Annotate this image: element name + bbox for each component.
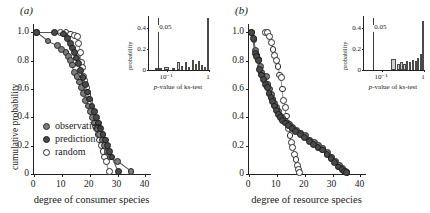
histogram-bar [185, 62, 187, 70]
y-tick-label: 0.4 [216, 111, 244, 121]
histogram-bar [204, 67, 206, 70]
threshold-line [158, 32, 159, 70]
inset-x-tick-label: 1 [411, 73, 430, 81]
x-tickmark [277, 174, 278, 177]
histogram-bar [172, 68, 175, 70]
inset-x-axis-label: p-value of ks-test [138, 83, 218, 91]
histogram-bar [188, 67, 190, 70]
data-point-random [279, 86, 286, 93]
inset-axes [148, 16, 209, 71]
x-tick-label: 20 [290, 179, 318, 189]
data-point-prediction [115, 168, 122, 175]
x-tick-label: 40 [130, 179, 158, 189]
legend-label-random: random [55, 146, 86, 157]
x-tick-label: 10 [47, 179, 75, 189]
x-tickmark [360, 174, 361, 177]
inset-y-axis-label: probability [341, 41, 348, 70]
inset-y-tickmark [362, 49, 364, 50]
y-tick-label: 0.8 [1, 55, 29, 65]
x-tickmark [305, 174, 306, 177]
x-tick-label: 20 [75, 179, 103, 189]
data-point-prediction [250, 35, 257, 42]
data-point-prediction [82, 81, 89, 88]
figure-root: (a)00.20.40.60.81.0010203040cumulative p… [0, 0, 430, 213]
x-tick-label: 10 [262, 179, 290, 189]
x-tickmark [249, 174, 250, 177]
histogram-bar [207, 18, 209, 70]
y-tickmark [246, 146, 249, 147]
histogram-bar [198, 61, 200, 70]
inset-y-tickmark [147, 70, 149, 71]
data-point-random [75, 40, 82, 47]
threshold-label: 0.05 [159, 23, 171, 31]
inset-x-tickmark [382, 70, 383, 72]
legend-marker-random [43, 149, 50, 156]
data-point-random [278, 74, 285, 81]
data-point-random [268, 39, 275, 46]
legend-marker-prediction [43, 136, 50, 143]
y-tickmark [31, 146, 34, 147]
y-tickmark [246, 61, 249, 62]
inset-x-tick-label: 10⁻¹ [154, 73, 178, 81]
y-tickmark [31, 117, 34, 118]
y-tickmark [246, 89, 249, 90]
inset-x-axis-label: p-value of ks-test [353, 83, 430, 91]
data-point-prediction [255, 57, 262, 64]
x-tick-label: 40 [345, 179, 373, 189]
data-point-random [74, 33, 81, 40]
y-tickmark [246, 117, 249, 118]
data-point-random [275, 63, 282, 70]
inset-y-tickmark [362, 28, 364, 29]
legend-label-prediction: prediction [55, 133, 96, 144]
data-point-random [280, 97, 287, 104]
x-tick-label: 30 [318, 179, 346, 189]
data-point-prediction [75, 60, 82, 67]
histogram-bar [192, 60, 194, 70]
data-point-random [282, 104, 289, 111]
histogram-bar [406, 61, 408, 70]
inset-x-tickmark [167, 70, 168, 72]
data-point-prediction [343, 169, 350, 176]
x-tickmark [62, 174, 63, 177]
y-tick-label: 0.6 [216, 83, 244, 93]
histogram-bar [397, 64, 400, 70]
legend-label-observation: observation [55, 120, 102, 131]
panel-label: (b) [235, 4, 248, 16]
inset-y-tickmark [362, 70, 364, 71]
x-tickmark [333, 174, 334, 177]
panel-label: (a) [20, 4, 33, 16]
x-tick-label: 0 [234, 179, 262, 189]
inset-y-tickmark [147, 28, 149, 29]
inset-y-axis-label: probability [126, 41, 133, 70]
inset-y-tickmark [147, 49, 149, 50]
y-tickmark [31, 61, 34, 62]
x-tick-label: 0 [19, 179, 47, 189]
y-tick-label: 1.0 [216, 26, 244, 36]
y-axis-label: cumulative probability [10, 84, 20, 170]
x-tickmark [34, 174, 35, 177]
histogram-bar [195, 64, 197, 70]
x-tickmark [90, 174, 91, 177]
histogram-bar [422, 21, 424, 70]
x-tick-label: 30 [103, 179, 131, 189]
data-point-random [296, 169, 303, 176]
threshold-label: 0.05 [374, 23, 386, 31]
histogram-bar [391, 59, 396, 70]
threshold-line [373, 32, 374, 70]
histogram-bar [177, 62, 179, 70]
inset-x-tickmark [209, 70, 210, 72]
data-point-prediction [84, 89, 91, 96]
histogram-bar [403, 64, 405, 70]
inset-axes [363, 16, 424, 71]
histogram-bar [181, 66, 183, 70]
y-tick-label: 0.8 [216, 55, 244, 65]
inset-y-tick-label: 0.4 [128, 24, 146, 32]
x-axis-label: degree of consumer species [18, 194, 165, 205]
data-point-random [106, 168, 113, 175]
data-point-observation [128, 168, 135, 175]
inset-y-tick-label: 0.4 [343, 24, 361, 32]
inset-x-tick-label: 10⁻¹ [369, 73, 393, 81]
y-tick-label: 1.0 [1, 26, 29, 36]
inset-x-tickmark [424, 70, 425, 72]
x-tickmark [145, 174, 146, 177]
